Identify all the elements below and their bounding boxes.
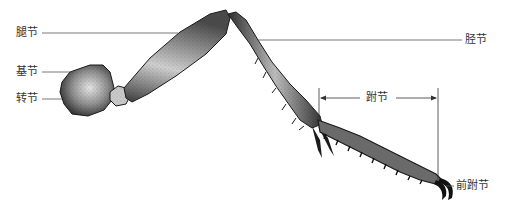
pretarsus-claws (434, 178, 453, 200)
trochanter-label: 转节 (16, 93, 38, 105)
leg-illustration (0, 0, 506, 220)
tibia-segment (228, 12, 322, 130)
coxa-segment (60, 65, 114, 116)
tarsus-label: 跗节 (366, 92, 388, 104)
femur-label: 腿节 (16, 27, 38, 39)
tibia-label: 胫节 (465, 34, 487, 46)
femur-segment (124, 10, 230, 102)
pretarsus-label: 前跗节 (456, 180, 489, 192)
tarsus-segment (318, 120, 442, 184)
coxa-label: 基节 (16, 66, 38, 78)
insect-leg-diagram: 腿节 基节 转节 胫节 跗节 前跗节 (0, 0, 506, 220)
